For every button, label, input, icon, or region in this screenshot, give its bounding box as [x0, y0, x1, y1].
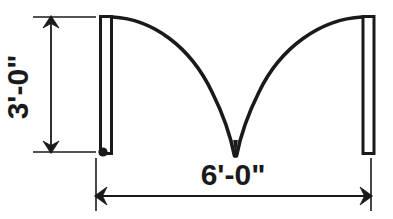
right-jamb-outline	[363, 17, 374, 154]
arch-curve-group	[113, 17, 363, 158]
left-jamb-outline	[101, 17, 112, 154]
technical-drawing-canvas: 3'-0" 6'-0"	[0, 0, 393, 219]
horizontal-dimension-label: 6'-0"	[201, 158, 266, 191]
left-jamb-post	[98, 17, 111, 157]
vertical-dimension-label: 3'-0"	[1, 55, 34, 120]
pivot-dot-icon	[98, 147, 107, 156]
right-jamb-post	[363, 17, 374, 154]
vertical-dimension-group: 3'-0"	[1, 16, 96, 154]
left-arch-curve	[113, 17, 235, 156]
right-arch-curve	[237, 17, 363, 156]
horizontal-dimension-group: 6'-0"	[95, 158, 373, 211]
arched-opening-elevation-drawing: 3'-0" 6'-0"	[0, 0, 393, 219]
